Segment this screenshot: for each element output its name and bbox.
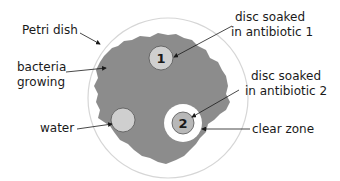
label-disc1-line2: in antibiotic 1 xyxy=(231,25,313,39)
petri-dish-arrow xyxy=(80,33,100,44)
label-clear-zone: clear zone xyxy=(252,122,314,136)
label-disc1-line1: disc soaked xyxy=(235,10,305,24)
label-bacteria-line1: bacteria xyxy=(17,60,66,74)
label-petri-dish: Petri dish xyxy=(22,23,78,37)
disc-1-number: 1 xyxy=(156,51,165,66)
label-disc2-line2: in antibiotic 2 xyxy=(245,84,327,98)
label-disc2-line1: disc soaked xyxy=(251,69,321,83)
label-bacteria-line2: growing xyxy=(17,75,65,89)
disc-2-number: 2 xyxy=(178,116,187,131)
disc-water xyxy=(111,108,135,132)
label-water: water xyxy=(40,121,74,135)
